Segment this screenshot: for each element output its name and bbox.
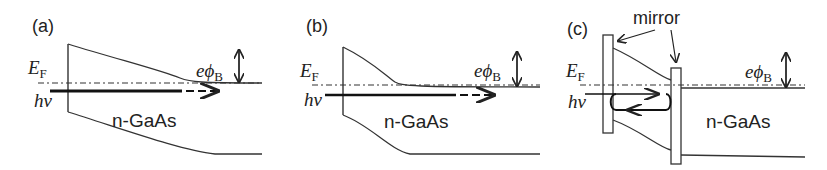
conduction-band (613, 48, 671, 80)
mirror-pointer-left (618, 30, 655, 41)
photon-label: hν (304, 89, 323, 110)
photon-loop (611, 94, 671, 110)
mirror-right (671, 68, 681, 164)
barrier-label: eϕB (474, 60, 501, 84)
photon-label: hν (568, 91, 587, 112)
mirror-pointer-right (671, 30, 676, 62)
valence-band (613, 120, 671, 150)
band-diagram-figure: (a) EF hν n-GaAs eϕB (b) EF hν n-GaAs eϕ… (0, 0, 827, 170)
material-label: n-GaAs (706, 111, 770, 132)
panel-label: (c) (567, 19, 588, 39)
conduction-band (68, 44, 262, 83)
valence-band-bulk (681, 155, 805, 157)
mirror-left (603, 35, 613, 133)
material-label: n-GaAs (384, 111, 448, 132)
fermi-level-label: EF (27, 57, 47, 81)
panel-b: (b) EF hν n-GaAs eϕB (299, 16, 540, 154)
fermi-level-label: EF (565, 60, 585, 84)
material-label: n-GaAs (112, 110, 176, 131)
panel-label: (a) (32, 16, 54, 36)
fermi-level-label: EF (299, 60, 319, 84)
panel-a: (a) EF hν n-GaAs eϕB (27, 16, 262, 154)
barrier-label: eϕB (196, 60, 223, 84)
mirror-label: mirror (633, 8, 680, 28)
panel-label: (b) (306, 16, 328, 36)
barrier-label: eϕB (745, 61, 772, 85)
conduction-band (343, 47, 540, 87)
panel-c: (c) mirror EF hν n-GaAs eϕB (565, 8, 805, 164)
photon-label: hν (34, 90, 53, 111)
